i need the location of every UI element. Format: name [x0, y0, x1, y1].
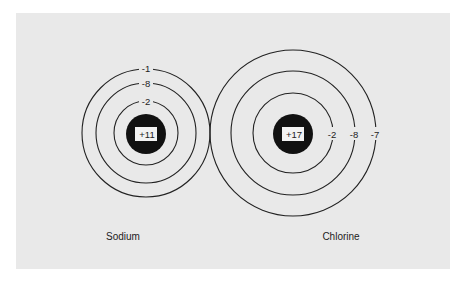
chlorine-shell-2-label: -8	[350, 129, 358, 140]
sodium-shell-2-label: -8	[142, 78, 150, 89]
chlorine-shell-3-label: -7	[371, 129, 379, 140]
sodium-nucleus-charge: +11	[139, 129, 154, 140]
chlorine-shell-1-label: -2	[328, 129, 336, 140]
chlorine-name: Chlorine	[322, 231, 359, 242]
sodium-shell-1-label: -2	[142, 96, 150, 107]
atom-diagram	[0, 0, 469, 285]
sodium-shell-3-label: -1	[142, 63, 150, 74]
chlorine-nucleus-charge: +17	[286, 129, 302, 140]
sodium-name: Sodium	[106, 231, 140, 242]
